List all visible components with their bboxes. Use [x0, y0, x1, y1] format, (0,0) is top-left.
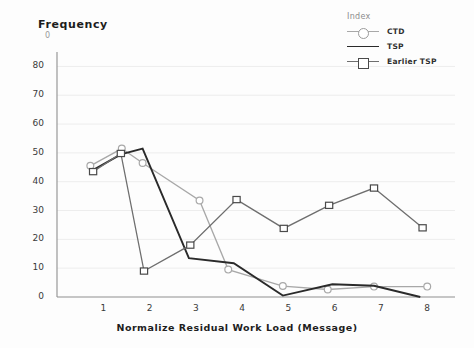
x-tick-label: 1 — [93, 303, 113, 313]
series-earlier-tsp — [89, 150, 426, 274]
legend-rows: CTDTSPEarlier TSP — [345, 24, 437, 69]
legend-label: TSP — [387, 42, 404, 51]
data-point-marker — [419, 225, 426, 231]
legend-label: CTD — [387, 27, 405, 36]
legend-label: Earlier TSP — [387, 57, 437, 66]
legend-square-icon — [358, 58, 369, 69]
x-tick-label: 5 — [278, 303, 298, 313]
y-tick-label: 10 — [18, 262, 44, 272]
data-point-marker — [117, 150, 124, 156]
data-point-marker — [196, 197, 203, 204]
data-point-marker — [89, 169, 96, 175]
y-tick-label: 20 — [18, 233, 44, 243]
data-point-marker — [279, 283, 286, 290]
series-line — [93, 153, 423, 271]
data-point-marker — [140, 268, 147, 274]
x-tick-label: 6 — [325, 303, 345, 313]
x-tick-label: 2 — [140, 303, 160, 313]
y-tick-label: 0 — [18, 291, 44, 301]
x-axis-label: Normalize Residual Work Load (Message) — [0, 322, 474, 333]
data-point-marker — [233, 196, 240, 202]
y-tick-label: 70 — [18, 89, 44, 99]
data-point-marker — [424, 283, 431, 290]
legend-key-icon — [345, 41, 381, 53]
x-tick-label: 4 — [232, 303, 252, 313]
y-tick-label: 80 — [18, 60, 44, 70]
legend-item-earlier-tsp[interactable]: Earlier TSP — [345, 54, 437, 69]
series-ctd — [87, 145, 431, 293]
data-point-marker — [326, 202, 333, 208]
legend-key-icon — [345, 56, 381, 68]
y-tick-label: 60 — [18, 118, 44, 128]
y-tick-label: 40 — [18, 176, 44, 186]
legend-line-icon — [347, 46, 379, 47]
data-point-marker — [280, 225, 287, 231]
x-tick-label: 8 — [417, 303, 437, 313]
y-tick-label: 50 — [18, 147, 44, 157]
series-layer — [87, 145, 431, 297]
x-tick-label: 3 — [186, 303, 206, 313]
legend-title: Index — [345, 12, 437, 21]
data-point-marker — [370, 185, 377, 191]
data-point-marker — [225, 266, 232, 273]
legend: Index CTDTSPEarlier TSP — [345, 12, 437, 69]
gridlines — [57, 66, 455, 268]
data-point-marker — [324, 286, 331, 293]
x-tick-label: 7 — [371, 303, 391, 313]
data-point-marker — [187, 242, 194, 248]
frequency-line-chart: Frequency 0 01020304050607080 12345678 N… — [0, 0, 474, 348]
data-point-marker — [139, 160, 146, 167]
legend-key-icon — [345, 26, 381, 38]
legend-item-tsp[interactable]: TSP — [345, 39, 437, 54]
y-tick-label: 30 — [18, 205, 44, 215]
legend-circle-icon — [358, 28, 369, 39]
legend-item-ctd[interactable]: CTD — [345, 24, 437, 39]
